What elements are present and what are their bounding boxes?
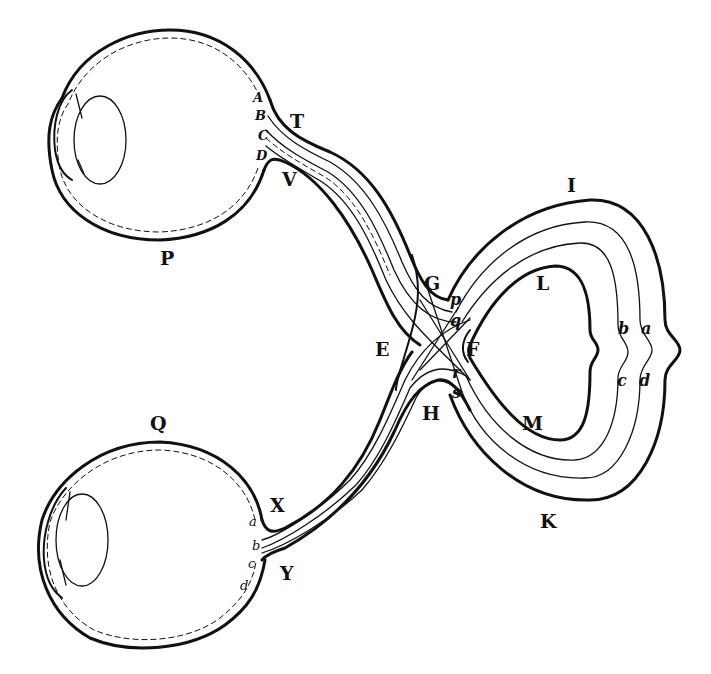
label-fibre-s: s <box>451 383 461 402</box>
label-chiasma-e: E <box>375 338 389 360</box>
upper-eyeball <box>49 30 270 240</box>
label-nerve-v: V <box>281 168 298 190</box>
label-nerve-x: X <box>270 494 285 516</box>
label-layer-a: a <box>641 319 651 338</box>
brain-outline <box>448 200 680 500</box>
label-lower-eye: Q <box>150 412 167 434</box>
label-lower-retina-d: d <box>240 578 248 593</box>
label-retina-c: C <box>258 128 269 143</box>
label-nerve-t: T <box>290 110 304 132</box>
label-retina-d: D <box>255 148 268 163</box>
lower-eyeball <box>39 442 265 648</box>
label-inner-l: L <box>536 272 549 294</box>
label-brain-k: K <box>540 510 558 532</box>
label-layer-c: c <box>617 371 627 390</box>
label-layer-d: d <box>639 371 650 390</box>
label-lower-retina-a: a <box>249 514 257 529</box>
lower-optic-nerve <box>262 320 470 560</box>
optic-chiasma-diagram: P Q A B C D T V X Y a b c d E F G H p q … <box>0 0 711 674</box>
label-chiasma-h: H <box>422 402 440 424</box>
label-inner-m: M <box>522 412 543 434</box>
label-fibre-p: p <box>450 290 461 309</box>
labels: P Q A B C D T V X Y a b c d E F G H p q … <box>150 90 651 593</box>
label-lower-retina-c: c <box>248 556 256 571</box>
label-chiasma-g: G <box>424 272 440 294</box>
label-retina-a: A <box>251 90 263 105</box>
label-brain-i: I <box>567 174 576 196</box>
label-upper-eye: P <box>160 247 174 269</box>
label-chiasma-f: F <box>466 338 480 360</box>
label-nerve-y: Y <box>279 562 294 584</box>
label-layer-b: b <box>618 319 629 338</box>
label-fibre-q: q <box>450 311 461 330</box>
label-retina-b: B <box>254 108 266 123</box>
label-lower-retina-b: b <box>252 538 260 553</box>
